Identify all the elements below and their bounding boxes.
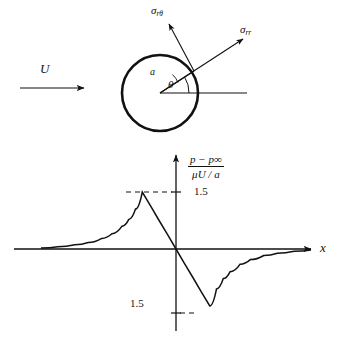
- y-axis-denominator: μU / a: [188, 166, 224, 181]
- theta-label: θ: [168, 79, 173, 90]
- y-tick-label-positive: 1.5: [194, 186, 208, 197]
- free-stream-label: U: [40, 62, 49, 75]
- x-axis-label: x: [320, 241, 326, 254]
- sigma-rtheta-arrow: [169, 24, 194, 71]
- sphere-schematic: [20, 24, 247, 131]
- sigma-rtheta-label: σrθ: [151, 5, 163, 17]
- radius-label: a: [150, 67, 155, 77]
- y-axis-label: p − p∞ μU / a: [188, 153, 224, 180]
- sigma-rtheta-subscript: rθ: [156, 9, 163, 18]
- stokes-flow-figure: U σrθ σrr a θ x 1.5 1.5 p − p∞ μU / a: [0, 0, 339, 340]
- sigma-rr-label: σrr: [240, 24, 251, 36]
- sigma-rr-subscript: rr: [245, 28, 251, 37]
- figure-canvas: [0, 0, 339, 340]
- y-axis-numerator: p − p∞: [188, 153, 224, 165]
- pressure-plot: [14, 155, 311, 331]
- y-tick-label-negative: 1.5: [130, 298, 144, 309]
- theta-angle-arc: [185, 77, 189, 93]
